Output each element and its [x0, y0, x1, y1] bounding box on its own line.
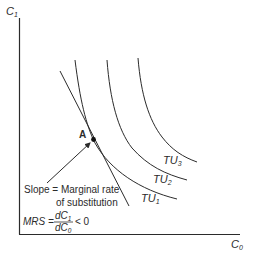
- annotation-arrow: [47, 143, 90, 183]
- point-label-a: A: [79, 129, 86, 140]
- formula-lhs: MRS =: [23, 216, 54, 227]
- formula-numerator: dC1: [55, 210, 72, 222]
- curve-label-tu1: TU1: [141, 192, 160, 205]
- formula-rhs: < 0: [75, 216, 90, 227]
- tangency-point-a: [91, 137, 96, 142]
- curve-label-tu3: TU3: [163, 154, 182, 167]
- curve-label-tu2: TU2: [153, 173, 172, 186]
- y-axis-label: C1: [6, 5, 18, 18]
- annotation-line-1: Slope = Marginal rate: [24, 184, 120, 195]
- formula-denominator: dC0: [55, 222, 72, 234]
- x-axis-label: C0: [231, 238, 243, 251]
- indifference-curve-tu3: [138, 58, 197, 162]
- annotation-line-2: of substitution: [56, 197, 118, 208]
- indifference-curve-diagram: C1 C0 A TU3 TU2 TU1 Slope = Marginal ra: [0, 0, 256, 257]
- diagram-canvas: C1 C0 A TU3 TU2 TU1 Slope = Marginal ra: [0, 0, 256, 257]
